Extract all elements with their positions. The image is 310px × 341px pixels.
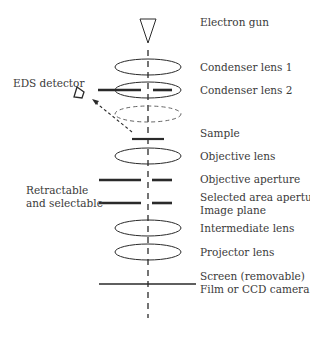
tem-column-diagram: Electron gun Condenser lens 1 Condenser … xyxy=(0,0,310,341)
label-condenser-lens-1: Condenser lens 1 xyxy=(200,61,293,74)
label-sample: Sample xyxy=(200,127,240,140)
label-projector-lens: Projector lens xyxy=(200,246,274,259)
electron-gun-icon xyxy=(140,19,156,43)
label-objective-lens: Objective lens xyxy=(200,150,275,163)
label-image-plane: Image plane xyxy=(200,204,266,217)
label-condenser-lens-2: Condenser lens 2 xyxy=(200,84,293,97)
label-eds-detector: EDS detector xyxy=(13,77,84,90)
label-intermediate-lens: Intermediate lens xyxy=(200,222,294,235)
label-retractable: Retractable xyxy=(26,184,88,197)
label-selected-area-aperture: Selected area aperture xyxy=(200,191,310,204)
label-objective-aperture: Objective aperture xyxy=(200,173,300,186)
xray-path-arrow xyxy=(95,102,132,132)
label-and-selectable: and selectable xyxy=(26,197,103,210)
label-screen: Screen (removable) xyxy=(200,270,305,283)
label-film-camera: Film or CCD camera xyxy=(200,283,309,296)
label-electron-gun: Electron gun xyxy=(200,16,269,29)
